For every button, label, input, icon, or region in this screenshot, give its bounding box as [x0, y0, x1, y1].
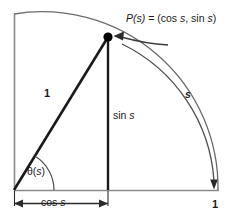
- arc-length-arrowhead-down: [210, 180, 218, 190]
- arc-length-label-variable: s: [185, 88, 191, 100]
- sine-label-function: sin: [113, 109, 129, 121]
- unit-circle-figure: P(s) = (cos s, sin s) sin s cos s 1 s 1 …: [0, 0, 242, 218]
- cosine-dimension-arrowhead-right: [99, 200, 108, 208]
- arc-length-label: s: [185, 89, 191, 100]
- point-p-marker: [103, 32, 112, 41]
- point-label-leader-line: [121, 37, 168, 45]
- cosine-label: cos s: [41, 197, 66, 208]
- point-p-label-separator: , sin: [185, 12, 207, 24]
- angle-label: θ(s): [27, 166, 45, 177]
- x-intercept-label: 1: [212, 199, 218, 210]
- radius-length-label: 1: [44, 88, 50, 99]
- cosine-label-function: cos: [41, 196, 60, 208]
- point-p-label: P(s) = (cos s, sin s): [126, 13, 216, 24]
- point-p-label-close-paren: ): [213, 12, 217, 24]
- point-label-arrowhead: [114, 32, 125, 41]
- cosine-dimension-arrowhead-left: [14, 200, 23, 208]
- point-p-label-argument: (s): [133, 12, 145, 24]
- sine-label-variable: s: [129, 109, 134, 121]
- sine-label: sin s: [113, 110, 135, 121]
- angle-label-close-paren: ): [42, 165, 46, 177]
- cosine-label-variable: s: [60, 196, 65, 208]
- point-p-label-equals: = (cos: [145, 12, 180, 24]
- point-p-label-symbol: P: [126, 12, 133, 24]
